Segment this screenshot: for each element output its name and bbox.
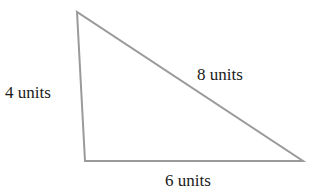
hypotenuse-label: 8 units <box>197 66 243 83</box>
triangle-outline <box>77 12 303 161</box>
triangle-diagram: 4 units 8 units 6 units <box>0 0 319 194</box>
bottom-side-label: 6 units <box>165 172 211 189</box>
left-side-label: 4 units <box>5 84 51 101</box>
